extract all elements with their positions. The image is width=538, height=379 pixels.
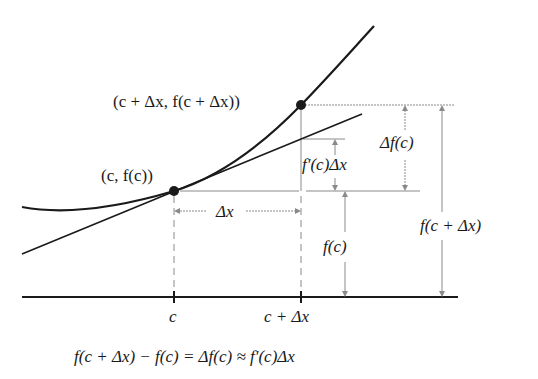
label-point-c: (c, f(c))	[101, 166, 153, 185]
point-c-dx	[296, 100, 306, 110]
label-f-c: f(c)	[323, 237, 347, 256]
diagram-canvas: (c, f(c)) (c + Δx, f(c + Δx)) Δx Δf(c) f…	[0, 0, 538, 379]
label-delta-x: Δx	[215, 202, 234, 221]
point-c	[169, 186, 179, 196]
differential-diagram: (c, f(c)) (c + Δx, f(c + Δx)) Δx Δf(c) f…	[0, 0, 538, 379]
label-tick-c: c	[169, 307, 177, 326]
label-f-c-dx: f(c + Δx)	[420, 216, 481, 235]
function-curve	[22, 26, 374, 210]
label-fprime-dx: f′(c)Δx	[302, 155, 347, 174]
label-delta-f: Δf(c)	[379, 133, 414, 152]
label-point-c-dx: (c + Δx, f(c + Δx))	[113, 92, 240, 111]
label-tick-c-dx: c + Δx	[264, 307, 309, 326]
equation: f(c + Δx) − f(c) = Δf(c) ≈ f′(c)Δx	[74, 347, 295, 366]
